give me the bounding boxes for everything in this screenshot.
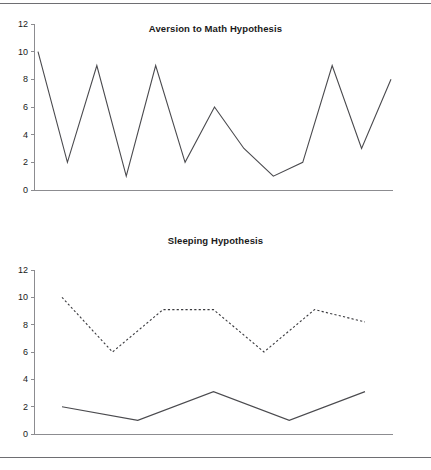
y-axis-tick-label: 4 <box>23 374 28 384</box>
series-solid-series <box>62 392 365 421</box>
series-dashed-series <box>62 297 365 352</box>
y-axis-tick-label: 0 <box>23 185 28 195</box>
y-axis-tick-label: 10 <box>18 47 28 57</box>
figure-page: Aversion to Math Hypothesis 024681012 Sl… <box>0 0 431 470</box>
y-axis-tick-label: 10 <box>18 292 28 302</box>
plot-area-sleeping: 024681012 <box>0 232 431 452</box>
top-divider-rule <box>0 3 431 4</box>
y-axis-tick-label: 6 <box>23 347 28 357</box>
plot-area-aversion: 024681012 <box>0 14 431 214</box>
y-axis-tick-label: 8 <box>23 320 28 330</box>
line-chart-sleeping-svg: 024681012 <box>0 232 431 452</box>
y-axis-tick-label: 6 <box>23 102 28 112</box>
series-aversion <box>38 52 391 177</box>
y-axis-tick-label: 0 <box>23 429 28 439</box>
y-axis-tick-label: 8 <box>23 74 28 84</box>
y-axis-tick-label: 2 <box>23 157 28 167</box>
chart-aversion-to-math-hypothesis: Aversion to Math Hypothesis 024681012 <box>0 14 431 214</box>
y-axis-tick-label: 2 <box>23 402 28 412</box>
bottom-divider-rule <box>0 457 431 458</box>
y-axis-tick-label: 12 <box>18 19 28 29</box>
line-chart-aversion-svg: 024681012 <box>0 14 431 214</box>
y-axis-tick-label: 12 <box>18 265 28 275</box>
chart-sleeping-hypothesis: Sleeping Hypothesis 024681012 <box>0 232 431 452</box>
y-axis-tick-label: 4 <box>23 130 28 140</box>
